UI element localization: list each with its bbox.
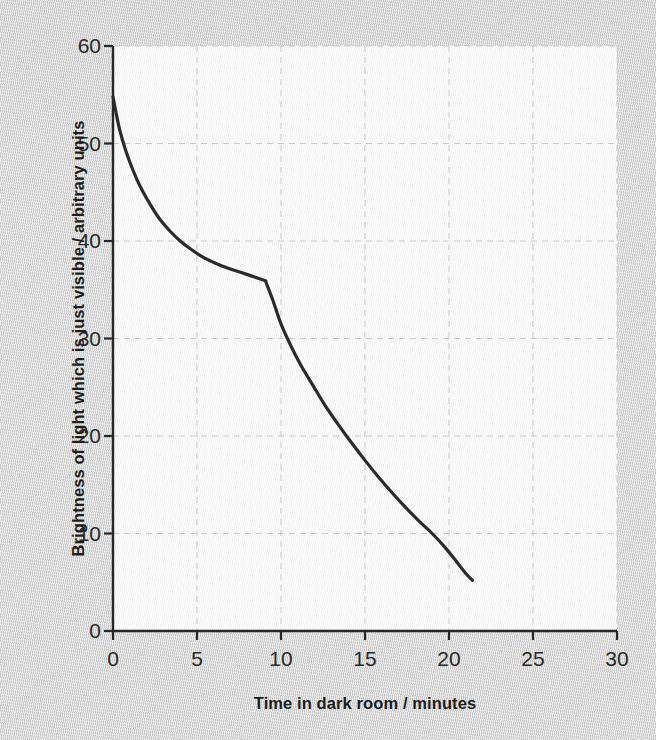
x-tick-label: 30 <box>605 647 628 671</box>
x-tick-label: 0 <box>107 647 119 671</box>
x-tick-label: 15 <box>353 647 376 671</box>
chart-page: 0102030405060 051015202530 Brightness of… <box>0 0 656 740</box>
x-axis-title: Time in dark room / minutes <box>113 694 617 713</box>
axis-ticks <box>104 46 617 640</box>
chart-figure: 0102030405060 051015202530 Brightness of… <box>0 0 656 740</box>
gridlines <box>113 46 617 631</box>
x-tick-label: 20 <box>437 647 460 671</box>
x-tick-label: 25 <box>521 647 544 671</box>
x-tick-label: 10 <box>269 647 292 671</box>
y-axis-title: Brightness of light which is just visibl… <box>58 46 98 631</box>
x-tick-label: 5 <box>191 647 203 671</box>
